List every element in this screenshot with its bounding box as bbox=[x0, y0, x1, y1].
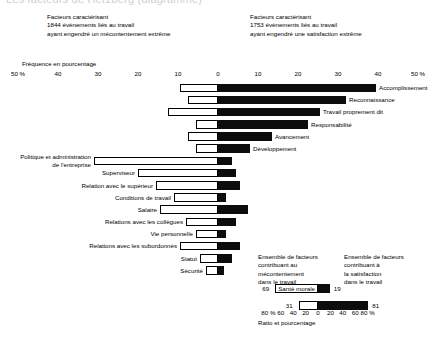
category-label: Accomplissement bbox=[379, 84, 428, 91]
ratio-axis-tick: 80 % bbox=[261, 309, 275, 316]
category-label: Avancement bbox=[275, 133, 309, 140]
legend-caption-left-line-3: mécontentement bbox=[258, 270, 318, 278]
legend-caption-left-line-2: contribuant au bbox=[258, 261, 318, 269]
category-label: Relation avec le supérieur bbox=[81, 182, 153, 189]
ratio-axis-label: Ratio et pourcentage bbox=[258, 319, 315, 326]
header-note-right-line-3: ayant engendré une satisfaction extrême bbox=[250, 30, 362, 38]
ratio-axis-tick: 20 bbox=[327, 309, 334, 316]
legend-bar-caption: Santé morale bbox=[275, 285, 318, 292]
header-note-left-line-1: Facteurs caractérisant bbox=[47, 13, 170, 21]
header-note-right: Facteurs caractérisant 1753 évènements l… bbox=[250, 13, 362, 38]
chart-row: Avancement bbox=[0, 131, 441, 143]
bar-dissatisfaction bbox=[180, 242, 218, 251]
bar-dissatisfaction bbox=[180, 84, 218, 93]
chart-canvas: Les facteurs de Herzberg (diagramme) Fac… bbox=[0, 0, 441, 350]
bar-satisfaction bbox=[218, 169, 236, 178]
bar-satisfaction bbox=[218, 120, 308, 129]
category-label: Superviseur bbox=[102, 169, 135, 176]
chart-row: Reconnaissance bbox=[0, 94, 441, 106]
category-label: Politique et administration de l'entrepr… bbox=[20, 153, 91, 168]
legend-caption-right-line-1: Ensemble de facteurs bbox=[344, 253, 404, 261]
category-label: Reconnaissance bbox=[349, 96, 395, 103]
chart-row: Superviseur bbox=[0, 167, 441, 179]
category-label: Travail proprement dit bbox=[323, 108, 383, 115]
ratio-axis-tick: 0 bbox=[316, 309, 319, 316]
category-label: Sécurité bbox=[180, 267, 203, 274]
chart-row: Vie personnelle bbox=[0, 228, 441, 240]
header-note-right-line-1: Facteurs caractérisant bbox=[250, 13, 362, 21]
frequency-axis-tick: 50 % bbox=[11, 70, 25, 77]
legend-caption-left: Ensemble de facteurs contribuant au méco… bbox=[258, 253, 318, 286]
category-label: Vie personnelle bbox=[150, 230, 193, 237]
bar-satisfaction bbox=[218, 157, 232, 166]
ratio-axis-tick: 60 bbox=[277, 309, 284, 316]
bar-satisfaction bbox=[218, 84, 376, 93]
ratio-axis-tick: 80 % bbox=[361, 309, 375, 316]
category-label: Relations avec les subordonnés bbox=[89, 242, 177, 249]
ratio-axis-tick: 20 bbox=[302, 309, 309, 316]
bar-dissatisfaction bbox=[206, 266, 218, 275]
ratio-axis-tick: 60 bbox=[352, 309, 359, 316]
frequency-axis-tick: 40 bbox=[375, 70, 382, 77]
bar-dissatisfaction bbox=[94, 157, 218, 166]
legend-caption-right: Ensemble de facteurs contribuant à la sa… bbox=[344, 253, 404, 286]
category-label: Responsabilité bbox=[311, 121, 352, 128]
bar-satisfaction bbox=[218, 96, 346, 105]
bar-satisfaction bbox=[218, 132, 272, 141]
chart-row: Accomplissement bbox=[0, 82, 441, 94]
bar-satisfaction bbox=[218, 242, 240, 251]
header-note-right-line-2: 1753 évènements liés au travail bbox=[250, 21, 362, 29]
chart-row: Conditions de travail bbox=[0, 192, 441, 204]
bar-dissatisfaction bbox=[196, 120, 218, 129]
legend-value-left: 31 bbox=[286, 302, 293, 309]
bar-satisfaction bbox=[218, 181, 240, 190]
category-label: Salaire bbox=[138, 206, 157, 213]
bar-dissatisfaction bbox=[200, 254, 218, 263]
bar-satisfaction bbox=[218, 193, 226, 202]
frequency-axis-tick: 10 bbox=[255, 70, 262, 77]
chart-row: Politique et administration de l'entrepr… bbox=[0, 155, 441, 167]
frequency-axis-tick: 10 bbox=[175, 70, 182, 77]
category-label: Développement bbox=[253, 145, 296, 152]
page-title: Les facteurs de Herzberg (diagramme) bbox=[6, 0, 202, 5]
frequency-axis-tick: 30 bbox=[95, 70, 102, 77]
frequency-axis-tick: 50 % bbox=[411, 70, 425, 77]
ratio-axis-tick: 40 bbox=[339, 309, 346, 316]
bar-satisfaction bbox=[218, 108, 320, 117]
chart-row: Relations avec les subordonnés bbox=[0, 240, 441, 252]
legend-value-left: 69 bbox=[262, 285, 269, 292]
frequency-axis: 50 %4030201001020304050 % bbox=[0, 70, 441, 80]
legend-bar-satisfaction bbox=[318, 284, 330, 293]
legend-value-right: 19 bbox=[334, 285, 341, 292]
category-label: Statut bbox=[181, 255, 197, 262]
bar-dissatisfaction bbox=[188, 96, 218, 105]
frequency-axis-tick: 20 bbox=[295, 70, 302, 77]
chart-row: Responsabilité bbox=[0, 119, 441, 131]
header-note-left: Facteurs caractérisant 1844 évènements l… bbox=[47, 13, 170, 38]
legend-caption-right-line-2: contribuant à bbox=[344, 261, 404, 269]
bar-dissatisfaction bbox=[186, 218, 218, 227]
bar-dissatisfaction bbox=[138, 169, 218, 178]
bar-satisfaction bbox=[218, 266, 224, 275]
chart-row: Relations avec les collègues bbox=[0, 216, 441, 228]
legend-value-right: 81 bbox=[372, 302, 379, 309]
bar-rows: AccomplissementReconnaissanceTravail pro… bbox=[0, 82, 441, 277]
bar-satisfaction bbox=[218, 218, 236, 227]
bar-dissatisfaction bbox=[174, 193, 218, 202]
legend-caption-left-line-1: Ensemble de facteurs bbox=[258, 253, 318, 261]
bar-dissatisfaction bbox=[160, 205, 218, 214]
header-note-left-line-3: ayant engendré un mécontentement extrême bbox=[47, 30, 170, 38]
bar-dissatisfaction bbox=[196, 144, 218, 153]
bar-satisfaction bbox=[218, 230, 226, 239]
chart-row: Salaire bbox=[0, 204, 441, 216]
frequency-axis-tick: 30 bbox=[335, 70, 342, 77]
bar-satisfaction bbox=[218, 254, 232, 263]
bar-satisfaction bbox=[218, 144, 250, 153]
category-label: Conditions de travail bbox=[115, 194, 171, 201]
frequency-axis-tick: 0 bbox=[216, 70, 219, 77]
bar-dissatisfaction bbox=[196, 230, 218, 239]
ratio-axis: 80 %604020020406080 % bbox=[0, 309, 441, 319]
legend-caption-right-line-4: dans le travail bbox=[344, 278, 404, 286]
frequency-axis-tick: 40 bbox=[55, 70, 62, 77]
category-label: Relations avec les collègues bbox=[105, 218, 183, 225]
